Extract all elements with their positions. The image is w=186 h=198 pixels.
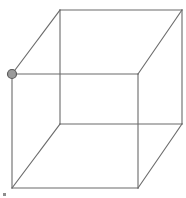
edge-connector-bottom-right (138, 124, 182, 188)
vertex-marker-dot[interactable] (8, 70, 17, 79)
wireframe-cube-drawing (0, 0, 186, 198)
edge-connector-bottom-left (12, 124, 60, 188)
edge-connector-top-right (138, 10, 182, 74)
cube-figure-canvas (0, 0, 186, 198)
corner-speck (3, 193, 6, 196)
edge-connector-top-left (12, 10, 60, 74)
cube-edge-group (12, 10, 182, 188)
